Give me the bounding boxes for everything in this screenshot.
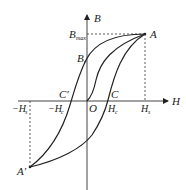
tick-neg-hs-sub: s [25, 109, 28, 115]
hysteresis-diagram: B H B max B r A A′ C′ C O −H s −H c H c … [0, 0, 186, 190]
tick-hc-sub: c [115, 109, 118, 115]
point-a-prime [29, 166, 32, 169]
label-a: A [149, 28, 157, 40]
label-bmax-sub: max [76, 35, 86, 41]
tick-neg-hc-sub: c [61, 109, 64, 115]
label-origin: O [89, 102, 97, 114]
label-c-prime: C′ [59, 88, 69, 100]
label-a-prime: A′ [16, 165, 27, 177]
label-c: C [111, 88, 119, 100]
tick-hs-sub: s [148, 109, 151, 115]
point-a [144, 33, 147, 36]
label-bmax: B [69, 28, 76, 40]
h-axis-label: H [171, 95, 181, 107]
b-axis-label: B [94, 12, 101, 24]
label-br: B [77, 52, 84, 64]
